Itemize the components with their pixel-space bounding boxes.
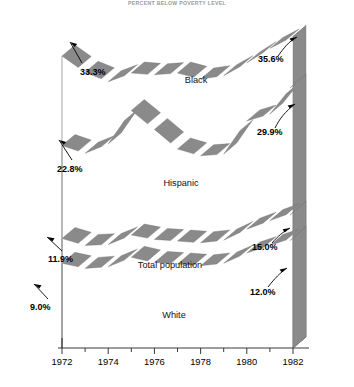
- ribbon-hispanic: [62, 74, 306, 348]
- ribbon-segment: [62, 45, 91, 67]
- value-label-total-start: 11.9%: [48, 254, 73, 264]
- ribbon-segment: [108, 249, 137, 267]
- value-label-hispanic-start: 22.8%: [57, 164, 83, 174]
- x-tick-label: 1980: [236, 356, 257, 367]
- ribbon-segment: [131, 224, 160, 238]
- x-tick-label: 1974: [98, 356, 119, 367]
- series-label-black: Black: [185, 75, 208, 85]
- leader-line: [268, 268, 287, 287]
- value-label-black-start: 33.3%: [80, 67, 106, 77]
- ribbon-segment: [247, 105, 276, 121]
- ribbon-segment: [85, 256, 114, 268]
- ribbon-segment: [178, 230, 207, 242]
- ribbon-segment: [108, 110, 137, 144]
- ribbon-segment: [85, 136, 114, 154]
- x-axis-tick-labels: 197219741976197819801982: [52, 356, 304, 367]
- series-label-hispanic: Hispanic: [163, 178, 199, 188]
- value-label-black-end: 35.6%: [258, 54, 284, 64]
- ribbon-segment: [224, 120, 253, 154]
- x-tick-label: 1976: [144, 356, 165, 367]
- x-tick-label: 1972: [52, 356, 73, 367]
- ribbon-segment: [62, 135, 91, 151]
- leader-line: [47, 237, 62, 251]
- ribbon-segment: [131, 246, 160, 261]
- value-label-total-end: 15.0%: [252, 242, 278, 252]
- poverty-ribbon-chart: PERCENT BELOW POVERTY LEVEL 197219741976…: [0, 0, 354, 387]
- ribbon-segment: [154, 118, 183, 143]
- ribbon-end-wall: [293, 227, 306, 348]
- x-tick-label: 1982: [283, 356, 304, 367]
- ribbon-total-population: [62, 201, 306, 348]
- series-label-total: Total population: [138, 260, 202, 270]
- ribbon-segment: [131, 62, 160, 74]
- x-axis: [58, 338, 309, 354]
- ribbon-segment: [201, 144, 230, 156]
- chart-title: PERCENT BELOW POVERTY LEVEL: [128, 0, 226, 6]
- series-label-white: White: [162, 310, 186, 320]
- ribbon-segment: [247, 212, 276, 229]
- x-tick-label: 1978: [190, 356, 211, 367]
- annotation-total-start: 11.9%: [47, 237, 73, 264]
- ribbon-segment: [131, 100, 160, 124]
- annotation-white-start: 9.0%: [30, 284, 51, 312]
- leader-line: [275, 104, 295, 128]
- leader-line: [34, 284, 48, 299]
- ribbon-segment: [154, 228, 183, 240]
- value-label-white-start: 9.0%: [30, 302, 51, 312]
- ribbon-segment: [224, 56, 253, 76]
- value-label-white-end: 12.0%: [250, 287, 276, 297]
- ribbon-segment: [178, 138, 207, 154]
- ribbon-segment: [108, 227, 137, 245]
- value-label-hispanic-end: 29.9%: [257, 127, 283, 137]
- arrow-head: [280, 268, 287, 273]
- chart-canvas: PERCENT BELOW POVERTY LEVEL 197219741976…: [0, 0, 354, 387]
- ribbon-segment: [62, 228, 91, 244]
- annotation-white-end: 12.0%: [250, 268, 287, 297]
